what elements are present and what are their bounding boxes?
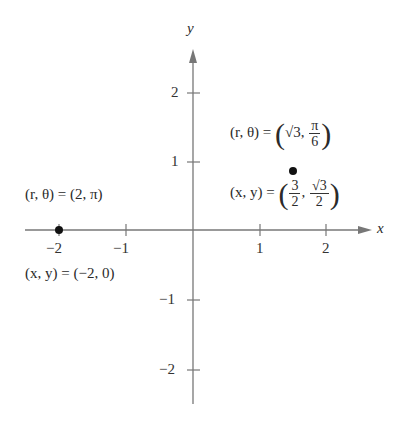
point-b-rect-x: 3 2 [289,178,300,209]
point-b-polar-theta: π 6 [309,118,320,149]
point-b-rect-prefix: (x, y) = [230,184,278,200]
point-b-rect-y: √3 2 [310,178,329,209]
point-b-marker [289,167,297,175]
point-b-polar-prefix: (r, θ) = [230,124,275,140]
y-axis-label: y [187,20,194,37]
y-tick-label: 1 [171,153,179,170]
point-a-polar-label: (r, θ) = (2, π) [25,186,103,203]
y-tick-label: 2 [171,84,179,101]
coordinate-plane [0,0,404,421]
point-a-rect-label: (x, y) = (−2, 0) [25,265,114,282]
x-axis-arrow-icon [358,226,372,234]
x-axis-label: x [377,220,384,237]
x-tick-label: −1 [113,240,129,257]
y-tick-label: −1 [159,291,175,308]
point-b-rect-label: (x, y) = ( 3 2 , √3 2 ) [230,178,340,209]
x-tick-label: 2 [322,240,330,257]
x-tick-label: 1 [256,240,264,257]
y-axis-arrow-icon [189,49,197,63]
y-tick-label: −2 [159,361,175,378]
x-tick-label: −2 [46,240,62,257]
point-a-marker [55,226,63,234]
point-b-polar-r: √3 [285,124,301,140]
point-b-polar-label: (r, θ) = (√3, π 6 ) [230,118,331,149]
